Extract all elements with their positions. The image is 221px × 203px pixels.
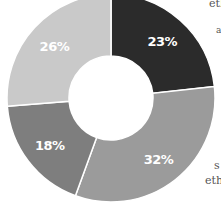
segment-label: 23% [148,34,178,49]
edge-text-upper-right: a [216,25,221,35]
segment-label: 32% [144,152,174,167]
donut-chart: 23%32%18%26% [0,0,221,203]
donut-segments [7,0,215,202]
segment-label: 26% [40,39,70,54]
segment-label: 18% [35,138,65,153]
donut-segment [75,86,215,202]
edge-text-bottom-right-2: eth [205,174,221,187]
edge-text-top-right: eth [209,0,221,10]
edge-text-bottom-right-1: s [214,159,220,172]
